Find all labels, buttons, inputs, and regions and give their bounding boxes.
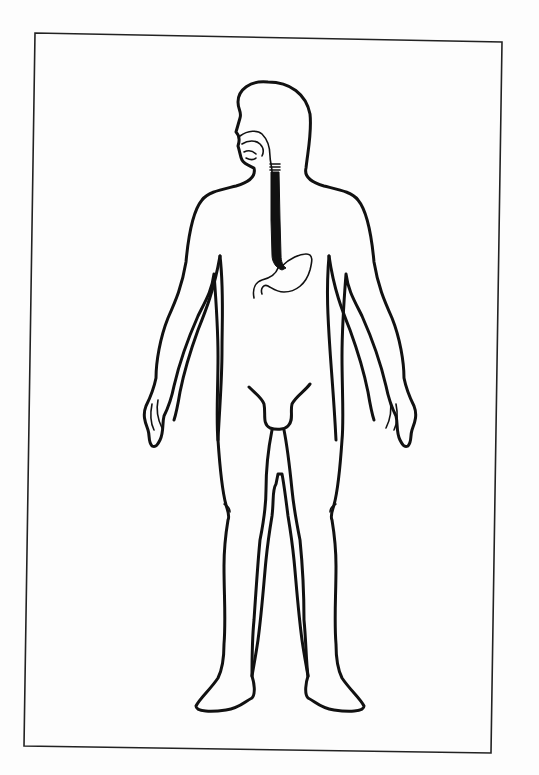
diagram-canvas (0, 0, 539, 775)
mouth-pharynx (240, 131, 272, 172)
figure-frame (24, 33, 502, 753)
body-outline (144, 82, 415, 711)
left-inner-leg (252, 430, 272, 676)
left-hand-finger-lines (151, 400, 162, 430)
right-arm-inner-line (329, 256, 374, 420)
groin-outline (249, 384, 310, 429)
stomach (253, 254, 311, 298)
right-inner-leg (284, 430, 308, 676)
human-body-diagram (0, 0, 539, 775)
esophagus (271, 172, 286, 270)
